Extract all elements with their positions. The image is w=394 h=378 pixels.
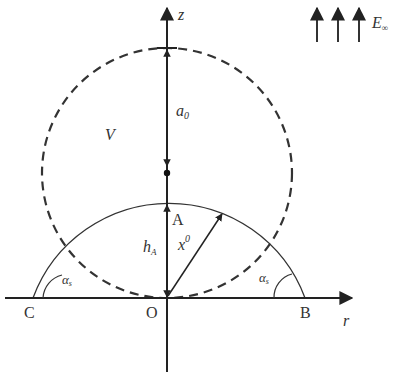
volume-label: V [105,126,117,143]
height-hA-label: hA [143,238,157,257]
contact-angle-label-left: αs [62,272,72,288]
contact-angle-label-right: αs [259,270,269,286]
r-axis-label: r [343,312,350,329]
field-label: E∞ [371,14,388,33]
sphere-center-dot [164,170,170,176]
point-O-label: O [146,304,158,321]
position-vector-label: x0 [177,233,190,253]
contact-angle-arc-left [43,275,62,298]
point-C-label: C [24,304,35,321]
z-axis-label: z [177,6,185,23]
contact-angle-arc-right [274,274,292,298]
point-A-label: A [172,211,184,228]
radius-a0-label: a0 [176,102,189,121]
point-B-label: B [300,304,311,321]
electrostatic-droplet-diagram: E∞ z r V a0 A B C O hA x0 αs αs [0,0,394,378]
